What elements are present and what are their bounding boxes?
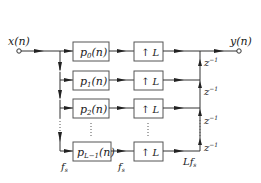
arrow-up-icon [198, 59, 202, 66]
output-delay-chain: z−1 z−1 z−1 z−1 [198, 51, 218, 153]
delay-label-2: z−1 [203, 114, 218, 126]
input-label: x(n) [8, 35, 30, 48]
arrow-icon [34, 49, 44, 53]
mid-rate-label: fs [117, 161, 125, 173]
input-rate-label: fs [60, 161, 68, 173]
upsampler-label-2: ↑ L [141, 104, 160, 115]
arrow-down-icon [58, 90, 62, 100]
arrow-icon [214, 49, 224, 53]
arrow-down-icon [58, 132, 62, 142]
filter-label-p2: p2(n) [80, 103, 107, 117]
output-terminal-icon [237, 49, 241, 53]
arrow-up-icon [198, 81, 202, 88]
delay-label-0: z−1 [203, 56, 218, 68]
arrow-down-icon [58, 62, 62, 72]
arrow-up-icon [198, 138, 202, 145]
delay-label-1: z−1 [203, 85, 218, 97]
upsampler-label-1: ↑ L [141, 76, 160, 87]
upsampler-label-last: ↑ L [141, 147, 160, 158]
arrow-up-icon [198, 109, 202, 116]
filter-label-p1: p1(n) [80, 75, 107, 89]
branch-2: p2(n) ↑ L [60, 99, 200, 118]
input-node: x(n) [8, 35, 30, 53]
input-distribution-bus [58, 51, 62, 151]
delay-label-3: z−1 [203, 141, 218, 153]
polyphase-interpolator-diagram: x(n) p0(n) ↑ L p1(n) ↑ L [0, 0, 261, 183]
branch-0: p0(n) ↑ L [60, 42, 200, 61]
filter-label-p0: p0(n) [80, 46, 107, 60]
input-terminal-icon [17, 49, 21, 53]
branch-1: p1(n) ↑ L [60, 71, 200, 90]
output-label: y(n) [229, 35, 252, 48]
output-rate-label: Lfs [182, 156, 196, 168]
branch-last: pL−1(n) ↑ L [60, 142, 200, 161]
upsampler-label-0: ↑ L [141, 47, 160, 58]
